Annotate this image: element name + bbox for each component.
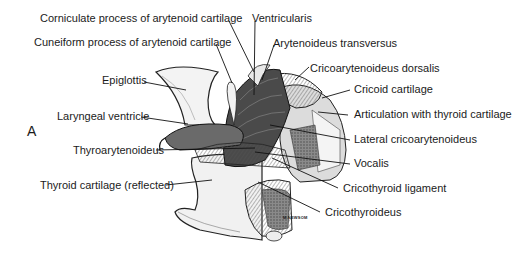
label-epiglottis: Epiglottis <box>102 74 147 87</box>
label-ventricularis: Ventricularis <box>252 12 312 25</box>
label-thyroid-cartilage: Thyroid cartilage (reflected) <box>40 179 174 192</box>
artist-signature: M.NEWSOM <box>283 215 308 220</box>
label-cricoarytenoideus-dorsalis: Cricoarytenoideus dorsalis <box>310 62 440 75</box>
label-cricothyroideus: Cricothyroideus <box>325 206 401 219</box>
epiglottis-shape <box>156 67 218 125</box>
label-thyroarytenoideus: Thyroarytenoideus <box>73 144 164 157</box>
label-lateral-cricoarytenoideus: Lateral cricoarytenoideus <box>354 133 477 146</box>
label-cricoid-cartilage: Cricoid cartilage <box>354 83 433 96</box>
label-articulation-thyroid: Articulation with thyroid cartilage <box>354 108 512 121</box>
label-arytenoideus-transversus: Arytenoideus transversus <box>273 37 397 50</box>
label-corniculate-process: Corniculate process of arytenoid cartila… <box>40 12 242 25</box>
label-laryngeal-ventricle: Laryngeal ventricle <box>57 110 149 123</box>
label-cricothyroid-ligament: Cricothyroid ligament <box>343 182 446 195</box>
panel-letter: A <box>27 123 36 139</box>
label-cuneiform-process: Cuneiform process of arytenoid cartilage <box>34 36 231 49</box>
label-vocalis: Vocalis <box>354 157 389 170</box>
